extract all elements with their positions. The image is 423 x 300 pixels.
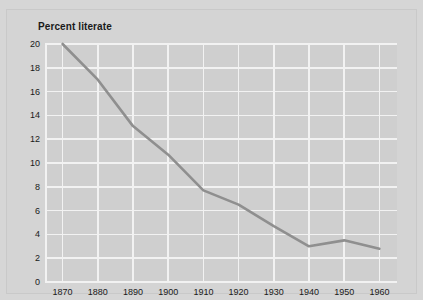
y-tick-16: 16 (30, 87, 40, 97)
y-axis-tick-labels: 02468101214161820 (21, 44, 40, 282)
x-tick-1890: 1890 (123, 287, 143, 297)
x-tick-1940: 1940 (299, 287, 319, 297)
chart-title: Percent literate (38, 21, 112, 32)
x-tick-1870: 1870 (53, 287, 73, 297)
x-tick-1950: 1950 (334, 287, 354, 297)
x-tick-1900: 1900 (158, 287, 178, 297)
y-tick-18: 18 (30, 63, 40, 73)
data-line (63, 44, 380, 249)
chart-figure: Percent literate 02468101214161820 18701… (0, 0, 423, 300)
series-line-percent-literate (45, 44, 397, 282)
y-tick-8: 8 (35, 182, 40, 192)
y-tick-6: 6 (35, 206, 40, 216)
y-tick-20: 20 (30, 39, 40, 49)
x-tick-1960: 1960 (369, 287, 389, 297)
y-tick-2: 2 (35, 253, 40, 263)
x-tick-1910: 1910 (193, 287, 213, 297)
y-tick-12: 12 (30, 134, 40, 144)
y-tick-10: 10 (30, 158, 40, 168)
x-tick-1930: 1930 (264, 287, 284, 297)
x-axis-tick-labels: 1870188018901900191019201930194019501960 (45, 287, 397, 300)
y-tick-4: 4 (35, 229, 40, 239)
y-tick-0: 0 (35, 277, 40, 287)
plot-area (45, 44, 397, 282)
figure-panel: Percent literate 02468101214161820 18701… (6, 9, 417, 294)
x-tick-1920: 1920 (229, 287, 249, 297)
y-tick-14: 14 (30, 110, 40, 120)
x-tick-1880: 1880 (88, 287, 108, 297)
